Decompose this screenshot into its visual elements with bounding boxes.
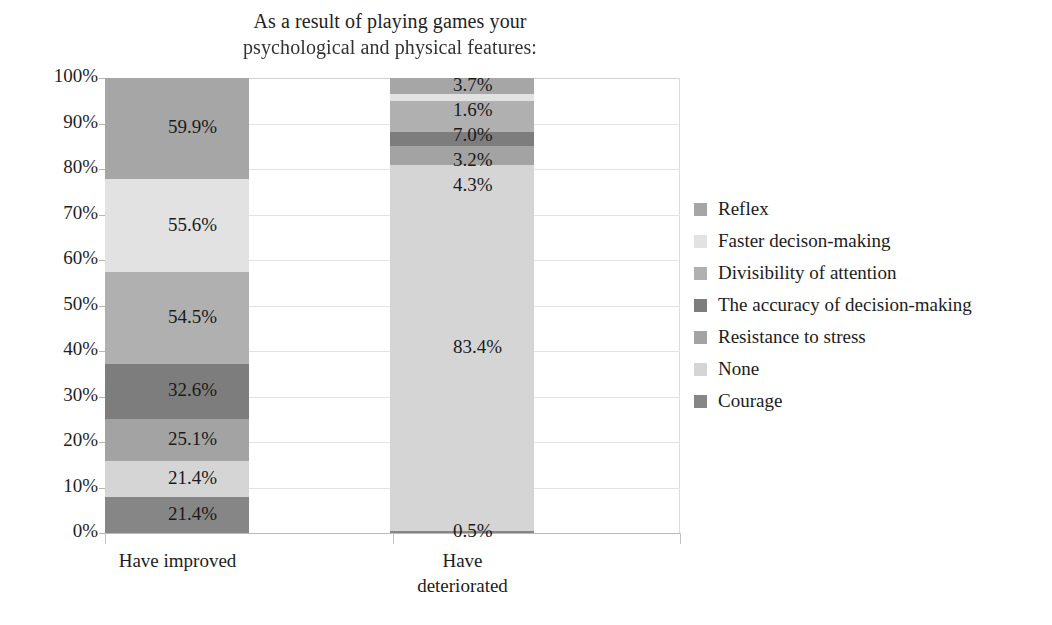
bar-have-deteriorated[interactable] — [390, 78, 534, 533]
legend-swatch-icon — [694, 331, 707, 344]
data-value-label: 59.9% — [168, 116, 217, 138]
x-axis-category-label: Have improved — [70, 548, 285, 573]
x-axis-category-label-line: Have improved — [70, 548, 285, 573]
legend-swatch-icon — [694, 235, 707, 248]
legend-swatch-icon — [694, 203, 707, 216]
data-value-label: 3.7% — [453, 74, 493, 96]
legend-item-the-accuracy-of-decision-making[interactable]: The accuracy of decision-making — [694, 289, 972, 321]
data-value-label: 54.5% — [168, 306, 217, 328]
data-value-label: 7.0% — [453, 124, 493, 146]
y-axis-tick-label: 90% — [36, 111, 98, 133]
legend-swatch-icon — [694, 267, 707, 280]
legend-item-reflex[interactable]: Reflex — [694, 193, 972, 225]
legend-item-none[interactable]: None — [694, 353, 972, 385]
data-value-label: 32.6% — [168, 379, 217, 401]
x-axis-tick-mark — [105, 533, 106, 544]
data-value-label: 21.4% — [168, 467, 217, 489]
x-axis-category-label-line: deteriorated — [355, 573, 570, 598]
y-axis-tick-label: 100% — [36, 65, 98, 87]
legend-item-courage[interactable]: Courage — [694, 385, 972, 417]
x-axis-tick-mark — [393, 533, 394, 544]
y-axis-tick-label: 30% — [36, 384, 98, 406]
y-axis-tick-label: 40% — [36, 338, 98, 360]
y-axis-tick-label: 60% — [36, 247, 98, 269]
legend-item-label: Resistance to stress — [718, 326, 866, 348]
chart-title: As a result of playing games your psycho… — [180, 8, 600, 60]
y-axis-tick-label: 20% — [36, 429, 98, 451]
y-axis-tick-label: 50% — [36, 293, 98, 315]
data-value-label: 1.6% — [453, 99, 493, 121]
stacked-bar-chart: As a result of playing games your psycho… — [0, 0, 1052, 625]
legend-item-divisibility-of-attention[interactable]: Divisibility of attention — [694, 257, 972, 289]
y-axis-tick-label: 70% — [36, 202, 98, 224]
y-axis-tick-label: 0% — [36, 520, 98, 542]
legend-item-label: Reflex — [718, 198, 769, 220]
legend-item-resistance-to-stress[interactable]: Resistance to stress — [694, 321, 972, 353]
legend-item-faster-decison-making[interactable]: Faster decison-making — [694, 225, 972, 257]
data-value-label: 3.2% — [453, 149, 493, 171]
chart-title-line-2: psychological and physical features: — [180, 34, 600, 60]
data-value-label: 83.4% — [453, 336, 502, 358]
chart-title-line-1: As a result of playing games your — [180, 8, 600, 34]
legend-item-label: Divisibility of attention — [718, 262, 896, 284]
y-axis-tick-label: 10% — [36, 475, 98, 497]
legend-swatch-icon — [694, 395, 707, 408]
data-value-label: 55.6% — [168, 214, 217, 236]
legend-swatch-icon — [694, 363, 707, 376]
legend-item-label: None — [718, 358, 759, 380]
x-axis-category-label-line: Have — [355, 548, 570, 573]
data-value-label: 4.3% — [453, 174, 493, 196]
legend-swatch-icon — [694, 299, 707, 312]
legend-item-label: Courage — [718, 390, 782, 412]
data-value-label: 0.5% — [453, 520, 493, 542]
y-axis-tick-label: 80% — [36, 156, 98, 178]
legend-item-label: Faster decison-making — [718, 230, 891, 252]
legend-item-label: The accuracy of decision-making — [718, 294, 972, 316]
x-axis-category-label: Havedeteriorated — [355, 548, 570, 598]
data-value-label: 21.4% — [168, 503, 217, 525]
data-value-label: 25.1% — [168, 428, 217, 450]
legend: ReflexFaster decison-makingDivisibility … — [694, 193, 972, 417]
x-axis-tick-mark — [680, 533, 681, 544]
